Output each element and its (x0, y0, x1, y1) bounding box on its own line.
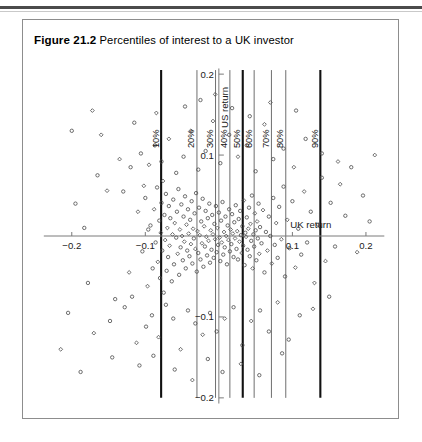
data-point (191, 262, 194, 265)
data-point (59, 347, 63, 351)
data-point (305, 241, 308, 244)
data-point (201, 333, 205, 337)
data-point (169, 216, 172, 219)
data-point (233, 237, 237, 241)
data-point (90, 109, 94, 113)
data-point (204, 235, 208, 239)
data-point (205, 254, 208, 257)
data-point (201, 197, 204, 200)
data-point (274, 221, 278, 225)
percentile-label-60: 60% (243, 129, 254, 148)
data-point (149, 224, 152, 227)
data-point (164, 303, 167, 306)
data-point (147, 163, 151, 167)
y-tick-label: 0.2 (201, 69, 214, 80)
data-point (173, 368, 176, 371)
data-point (165, 269, 168, 272)
data-point (172, 263, 175, 266)
data-point (267, 330, 270, 333)
percentile-label-70: 70% (260, 129, 271, 148)
percentile-label-90: 90% (309, 129, 320, 148)
data-point (79, 370, 82, 373)
data-point (255, 220, 259, 224)
data-point (162, 291, 165, 294)
data-point (249, 319, 253, 323)
data-point (196, 229, 200, 233)
percentile-label-80: 80% (274, 129, 285, 148)
y-tick-label: 0.1 (201, 150, 214, 161)
data-point (185, 223, 189, 227)
data-point (111, 356, 114, 359)
data-point (257, 202, 260, 205)
data-point (246, 248, 249, 251)
data-point (177, 273, 180, 276)
data-point (221, 370, 224, 373)
data-point (133, 121, 136, 124)
data-point (246, 227, 250, 231)
data-point (277, 205, 280, 208)
data-point (86, 281, 89, 284)
data-point (164, 192, 167, 195)
data-point (197, 206, 200, 209)
data-point (105, 189, 109, 193)
data-point (189, 242, 193, 246)
data-point (237, 217, 240, 220)
data-point (235, 229, 239, 233)
data-point (198, 233, 202, 237)
data-point (167, 204, 170, 207)
data-point (244, 231, 247, 234)
data-point (263, 122, 267, 126)
data-point (151, 267, 154, 270)
data-point (182, 155, 185, 158)
scatter-plot: 10%20%30%40%50%60%70%80%90%−0.2−0.10.10.… (23, 20, 400, 420)
data-point (191, 227, 195, 231)
data-point (248, 255, 251, 258)
data-point (221, 200, 224, 203)
data-point (175, 210, 178, 213)
data-point (186, 208, 189, 211)
data-point (113, 297, 116, 300)
data-point (108, 319, 111, 322)
data-point (136, 210, 140, 214)
data-point (83, 226, 86, 229)
data-point (279, 237, 283, 241)
data-point (190, 378, 194, 382)
data-point (179, 347, 183, 351)
percentile-label-30: 30% (204, 129, 215, 148)
data-point (261, 208, 265, 212)
data-point (144, 196, 147, 199)
data-point (276, 300, 280, 304)
page-top-rule (0, 6, 422, 9)
percentile-label-10: 10% (150, 129, 161, 148)
x-axis-title: UK return (290, 219, 331, 230)
data-point (167, 137, 171, 141)
data-point (361, 194, 364, 197)
data-point (203, 245, 206, 248)
data-point (188, 218, 191, 221)
data-point (122, 190, 125, 193)
data-point (186, 309, 189, 312)
data-point (272, 196, 275, 199)
data-point (344, 214, 347, 217)
data-point (333, 245, 336, 248)
data-point (173, 221, 177, 225)
page-top-rule-thin (0, 11, 422, 12)
data-point (177, 187, 180, 190)
data-point (152, 207, 156, 211)
data-point (253, 211, 257, 215)
data-point (238, 240, 242, 244)
data-point (224, 215, 227, 218)
data-point (222, 230, 226, 234)
data-point (168, 244, 172, 248)
data-point (182, 215, 185, 218)
data-point (166, 255, 169, 258)
data-point (258, 225, 261, 228)
percentile-label-40: 40% (218, 129, 229, 148)
data-point (163, 238, 167, 242)
data-point (200, 220, 203, 223)
data-point (257, 252, 261, 256)
data-point (327, 295, 330, 298)
data-point (230, 212, 233, 215)
data-point (338, 182, 342, 186)
data-point (154, 111, 158, 115)
